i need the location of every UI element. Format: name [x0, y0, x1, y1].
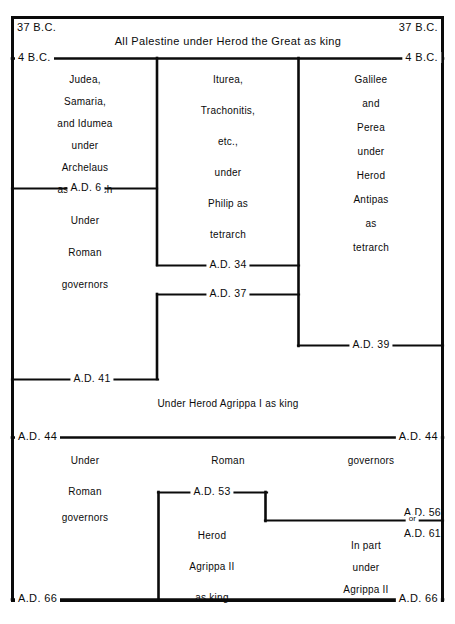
agrippa2-line-3: as king — [195, 592, 228, 603]
date-ad39: A.D. 39 — [349, 339, 392, 350]
date-ad6: A.D. 6 — [68, 182, 105, 193]
galilee-line-6: Antipas — [353, 194, 388, 205]
date-or-separator: or — [406, 515, 419, 523]
roman-gov-1-line-1: Under — [71, 215, 100, 226]
column-agrippa2-king: Herod Agrippa II as king — [189, 530, 234, 603]
judea-line-3: and Idumea — [57, 118, 112, 129]
roman-gov-1-line-3: governors — [62, 279, 109, 290]
date-ad66-left: A.D. 66 — [15, 593, 60, 604]
judea-line-4: under — [72, 140, 99, 151]
iturea-line-1: Iturea, — [213, 74, 243, 85]
galilee-line-5: Herod — [357, 170, 386, 181]
roman-gov-1-line-2: Roman — [68, 247, 102, 258]
roman-band-word-3: governors — [348, 456, 395, 466]
date-4bc-left: 4 B.C. — [15, 52, 54, 63]
galilee-line-2: and — [362, 98, 379, 109]
date-ad44-left: A.D. 44 — [15, 431, 60, 442]
inpart-line-3: Agrippa II — [343, 584, 388, 595]
roman-band-word-1: Under — [71, 456, 100, 466]
column-iturea-philip: Iturea, Trachonitis, etc., under Philip … — [201, 74, 255, 240]
column-galilee-antipas: Galilee and Perea under Herod Antipas as… — [353, 74, 389, 253]
date-ad53: A.D. 53 — [190, 486, 233, 497]
galilee-line-3: Perea — [357, 122, 385, 133]
galilee-line-8: tetrarch — [353, 242, 389, 253]
date-ad61: A.D. 61 — [404, 528, 441, 539]
iturea-line-6: tetrarch — [210, 229, 246, 240]
agrippa1-title: Under Herod Agrippa I as king — [157, 399, 298, 409]
date-37bc-right: 37 B.C. — [399, 22, 438, 33]
column-judea-archelaus: Judea, Samaria, and Idumea under Archela… — [57, 74, 112, 195]
iturea-line-3: etc., — [218, 136, 238, 147]
date-ad44-right: A.D. 44 — [396, 431, 441, 442]
date-ad37: A.D. 37 — [206, 288, 249, 299]
date-ad34: A.D. 34 — [206, 259, 249, 270]
header-title: All Palestine under Herod the Great as k… — [115, 36, 342, 47]
date-37bc-left: 37 B.C. — [17, 22, 56, 33]
roman-left-line-3: governors — [62, 513, 109, 523]
inpart-line-2: under — [353, 562, 380, 573]
inpart-line-1: In part — [351, 540, 381, 551]
iturea-line-4: under — [215, 167, 242, 178]
agrippa2-line-2: Agrippa II — [189, 561, 234, 572]
galilee-line-7: as — [365, 218, 376, 229]
galilee-line-4: under — [358, 146, 385, 157]
date-ad66-right: A.D. 66 — [396, 593, 441, 604]
judea-line-2: Samaria, — [64, 96, 106, 107]
galilee-line-1: Galilee — [355, 74, 388, 85]
date-4bc-right: 4 B.C. — [402, 52, 441, 63]
iturea-line-5: Philip as — [208, 198, 248, 209]
column-roman-governors-1: Under Roman governors — [62, 215, 109, 290]
iturea-line-2: Trachonitis, — [201, 105, 255, 116]
judea-line-1: Judea, — [69, 74, 101, 85]
date-ad41: A.D. 41 — [70, 373, 113, 384]
column-in-part-agrippa2: In part under Agrippa II — [343, 540, 388, 595]
agrippa2-line-1: Herod — [198, 530, 227, 541]
roman-left-line-2: Roman — [68, 487, 102, 497]
judea-line-5: Archelaus — [62, 162, 109, 173]
roman-band-word-2: Roman — [211, 456, 245, 466]
